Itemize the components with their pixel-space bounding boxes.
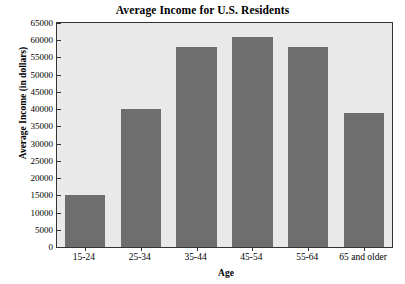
y-tick-mark — [57, 230, 61, 231]
y-tick: 35000 — [31, 121, 58, 131]
y-tick-label: 25000 — [31, 156, 58, 166]
y-tick: 5000 — [35, 225, 57, 235]
x-tick-mark — [197, 247, 198, 251]
y-tick-mark — [57, 161, 61, 162]
y-tick: 30000 — [31, 139, 58, 149]
y-tick: 50000 — [31, 70, 58, 80]
plot-area: 0500010000150002000025000300003500040000… — [56, 22, 393, 248]
y-tick-label: 10000 — [31, 208, 58, 218]
y-tick-label: 45000 — [31, 87, 58, 97]
y-tick-label: 5000 — [35, 225, 57, 235]
bar — [232, 37, 272, 247]
y-tick-label: 40000 — [31, 104, 58, 114]
y-tick: 25000 — [31, 156, 58, 166]
x-tick-label: 65 and older — [339, 252, 387, 262]
y-tick: 65000 — [31, 18, 58, 28]
y-tick-label: 0 — [49, 242, 58, 252]
y-tick: 15000 — [31, 190, 58, 200]
y-tick-mark — [57, 109, 61, 110]
y-tick: 55000 — [31, 52, 58, 62]
bar — [288, 47, 328, 247]
y-tick-mark — [57, 195, 61, 196]
x-tick-label: 45-54 — [240, 252, 262, 262]
x-tick-mark — [85, 247, 86, 251]
y-tick-label: 65000 — [31, 18, 58, 28]
y-tick-mark — [57, 126, 61, 127]
y-tick-mark — [57, 144, 61, 145]
y-tick-mark — [57, 40, 61, 41]
y-tick-mark — [57, 178, 61, 179]
x-axis-title: Age — [56, 268, 396, 278]
y-tick-mark — [57, 23, 61, 24]
x-tick-mark — [252, 247, 253, 251]
y-tick-label: 35000 — [31, 121, 58, 131]
y-tick-mark — [57, 92, 61, 93]
y-tick-label: 30000 — [31, 139, 58, 149]
y-tick: 40000 — [31, 104, 58, 114]
x-tick-label: 25-34 — [129, 252, 151, 262]
bar — [176, 47, 216, 247]
x-tick-mark — [308, 247, 309, 251]
x-tick-label: 35-44 — [184, 252, 206, 262]
y-tick-label: 50000 — [31, 70, 58, 80]
y-tick: 0 — [49, 242, 58, 252]
bar — [344, 113, 384, 247]
y-tick: 45000 — [31, 87, 58, 97]
x-tick-label: 15-24 — [73, 252, 95, 262]
bar-chart: Average Income for U.S. Residents Averag… — [0, 0, 405, 284]
chart-title: Average Income for U.S. Residents — [0, 4, 405, 16]
y-tick-mark — [57, 75, 61, 76]
y-tick-label: 55000 — [31, 52, 58, 62]
x-tick-label: 55-64 — [296, 252, 318, 262]
y-tick-label: 20000 — [31, 173, 58, 183]
y-axis-title: Average Income (in dollars) — [18, 28, 28, 178]
x-tick-mark — [141, 247, 142, 251]
bar — [121, 109, 161, 247]
x-tick-mark — [364, 247, 365, 251]
y-tick: 10000 — [31, 208, 58, 218]
y-tick-mark — [57, 247, 61, 248]
bar — [65, 195, 105, 247]
y-tick-label: 60000 — [31, 35, 58, 45]
y-tick-mark — [57, 213, 61, 214]
y-tick-label: 15000 — [31, 190, 58, 200]
y-tick-mark — [57, 57, 61, 58]
y-tick: 20000 — [31, 173, 58, 183]
y-tick: 60000 — [31, 35, 58, 45]
